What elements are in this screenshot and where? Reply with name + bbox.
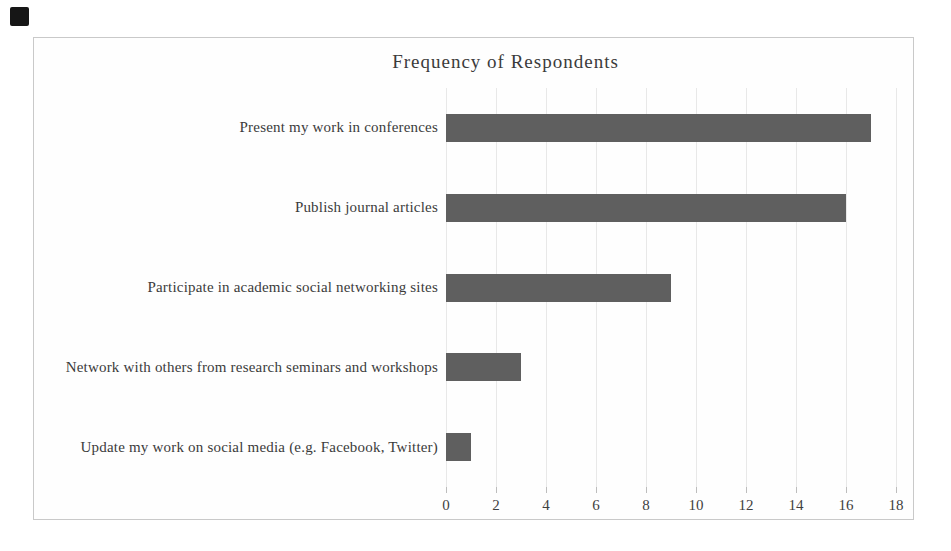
gridline <box>796 88 797 487</box>
bar <box>446 353 521 381</box>
x-tick-label: 18 <box>876 497 916 514</box>
bar <box>446 194 846 222</box>
x-tick-mark <box>746 487 747 493</box>
gridline <box>696 88 697 487</box>
category-label: Participate in academic social networkin… <box>42 248 438 328</box>
x-tick-mark <box>546 487 547 493</box>
category-label: Update my work on social media (e.g. Fac… <box>42 407 438 487</box>
bar <box>446 433 471 461</box>
x-tick-label: 2 <box>476 497 516 514</box>
x-tick-label: 4 <box>526 497 566 514</box>
scanned-page: Frequency of Respondents 024681012141618… <box>0 0 951 551</box>
x-tick-label: 16 <box>826 497 866 514</box>
gridline <box>896 88 897 487</box>
x-tick-mark <box>446 487 447 493</box>
scan-mark <box>10 7 29 26</box>
plot-area: 024681012141618 <box>446 88 896 487</box>
x-tick-label: 14 <box>776 497 816 514</box>
bar <box>446 114 871 142</box>
gridline <box>846 88 847 487</box>
category-label: Network with others from research semina… <box>42 327 438 407</box>
x-tick-mark <box>646 487 647 493</box>
chart-title: Frequency of Respondents <box>34 51 913 73</box>
gridline <box>746 88 747 487</box>
x-tick-label: 6 <box>576 497 616 514</box>
x-tick-mark <box>696 487 697 493</box>
category-label: Present my work in conferences <box>42 88 438 168</box>
x-tick-mark <box>496 487 497 493</box>
category-label: Publish journal articles <box>42 168 438 248</box>
x-tick-label: 12 <box>726 497 766 514</box>
x-tick-label: 8 <box>626 497 666 514</box>
x-tick-label: 0 <box>426 497 466 514</box>
x-tick-mark <box>846 487 847 493</box>
chart-frame: Frequency of Respondents 024681012141618… <box>33 37 914 520</box>
bar <box>446 274 671 302</box>
x-tick-mark <box>896 487 897 493</box>
x-tick-mark <box>796 487 797 493</box>
x-tick-label: 10 <box>676 497 716 514</box>
x-tick-mark <box>596 487 597 493</box>
